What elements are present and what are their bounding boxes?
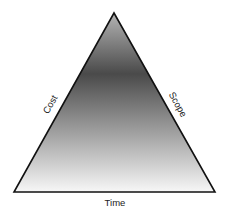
diagram-canvas: Cost Scope Time [0,0,230,212]
time-label: Time [105,197,126,208]
triangle-diagram: Cost Scope Time [0,0,230,212]
cost-label: Cost [40,93,59,116]
